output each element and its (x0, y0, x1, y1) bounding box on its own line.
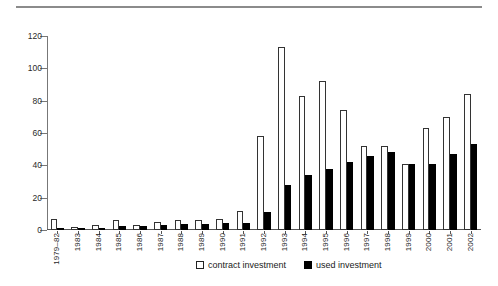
bar-used-investment (347, 162, 354, 230)
bar-group (299, 36, 313, 230)
bar-contract-investment (381, 146, 388, 230)
bar-used-investment (140, 226, 147, 230)
bar-contract-investment (113, 220, 120, 230)
bar-contract-investment (443, 117, 450, 230)
y-axis-tick-label: 80 (33, 96, 42, 105)
x-axis-tick-label: 1991 (239, 233, 247, 251)
x-axis-tick-label: 1993 (281, 233, 289, 251)
bar-contract-investment (237, 211, 244, 230)
bar-group (237, 36, 251, 230)
bar-group (133, 36, 147, 230)
y-axis-tick-label: 40 (33, 161, 42, 170)
bar-contract-investment (402, 164, 409, 230)
bar-contract-investment (216, 219, 223, 230)
bar-group (278, 36, 292, 230)
bar-used-investment (119, 226, 126, 230)
x-axis-tick-label: 2000 (425, 233, 433, 251)
legend-item-contract-investment: contract investment (196, 260, 286, 270)
bar-group (402, 36, 416, 230)
x-axis-tick-label: 1995 (322, 233, 330, 251)
x-axis-tick-label: 1997 (363, 233, 371, 251)
bar-used-investment (202, 224, 209, 230)
x-axis-tick-label: 1989 (198, 233, 206, 251)
bar-used-investment (326, 169, 333, 230)
bar-group (113, 36, 127, 230)
legend-label-used-investment: used investment (316, 260, 382, 270)
bar-contract-investment (319, 81, 326, 230)
bar-group (154, 36, 168, 230)
bar-contract-investment (423, 128, 430, 230)
y-axis-tick-label: 100 (28, 64, 42, 73)
bar-contract-investment (361, 146, 368, 230)
top-divider-rule (16, 6, 482, 8)
x-axis-tick-label: 1987 (157, 233, 165, 251)
bar-contract-investment (195, 220, 202, 230)
bar-used-investment (243, 223, 250, 230)
bar-contract-investment (340, 110, 347, 230)
bar-group (361, 36, 375, 230)
x-axis-tick-label: 1985 (115, 233, 123, 251)
y-axis-tick-label: 20 (33, 193, 42, 202)
bar-used-investment (99, 228, 106, 230)
bar-contract-investment (257, 136, 264, 230)
x-axis-tick-label: 1979–82 (53, 233, 61, 265)
x-axis-tick-label: 2001 (446, 233, 454, 251)
bar-used-investment (285, 185, 292, 230)
y-axis-tick-label: 60 (33, 129, 42, 138)
bar-group (216, 36, 230, 230)
x-axis-tick-label: 1986 (136, 233, 144, 251)
x-axis-tick-label: 1988 (177, 233, 185, 251)
bar-contract-investment (133, 225, 140, 230)
chart-figure: 020406080100120 1979–8219831984198519861… (0, 0, 498, 286)
bar-contract-investment (92, 225, 99, 230)
bar-contract-investment (71, 227, 78, 230)
bar-used-investment (78, 228, 85, 230)
bar-used-investment (429, 164, 436, 230)
bar-group (175, 36, 189, 230)
bar-group (257, 36, 271, 230)
bar-used-investment (388, 152, 395, 230)
legend-label-contract-investment: contract investment (208, 260, 286, 270)
x-axis-tick-label: 1998 (384, 233, 392, 251)
bar-used-investment (223, 223, 230, 230)
bar-group (423, 36, 437, 230)
bar-group (92, 36, 106, 230)
bar-series-container (47, 36, 481, 230)
bar-contract-investment (175, 220, 182, 230)
y-axis-tick-label: 120 (28, 32, 42, 41)
bar-used-investment (264, 212, 271, 230)
bar-contract-investment (278, 47, 285, 230)
filled-square-icon (304, 261, 312, 269)
bar-used-investment (161, 225, 168, 230)
bar-contract-investment (299, 96, 306, 230)
x-axis-tick-label: 1994 (301, 233, 309, 251)
bar-group (51, 36, 65, 230)
bar-group (443, 36, 457, 230)
x-axis-tick-label: 1992 (260, 233, 268, 251)
bar-group (71, 36, 85, 230)
plot-area: 020406080100120 (47, 36, 481, 230)
open-square-icon (196, 261, 204, 269)
bar-group (195, 36, 209, 230)
bar-used-investment (409, 164, 416, 230)
bar-contract-investment (51, 219, 58, 230)
x-axis-tick-label: 1984 (95, 233, 103, 251)
bar-group (340, 36, 354, 230)
bar-used-investment (450, 154, 457, 230)
bar-group (464, 36, 478, 230)
x-axis-tick-label: 1999 (405, 233, 413, 251)
bar-used-investment (181, 224, 188, 230)
bar-contract-investment (154, 222, 161, 230)
y-axis-tick-label: 0 (37, 226, 42, 235)
x-axis-tick-label: 1983 (74, 233, 82, 251)
chart-legend: contract investment used investment (196, 260, 382, 270)
bar-used-investment (367, 156, 374, 230)
x-axis-tick-label: 2002 (467, 233, 475, 251)
bar-used-investment (305, 175, 312, 230)
bar-contract-investment (464, 94, 471, 230)
legend-item-used-investment: used investment (304, 260, 382, 270)
bar-used-investment (57, 228, 64, 230)
bar-used-investment (471, 144, 478, 230)
x-axis-tick-label: 1996 (343, 233, 351, 251)
bar-group (381, 36, 395, 230)
